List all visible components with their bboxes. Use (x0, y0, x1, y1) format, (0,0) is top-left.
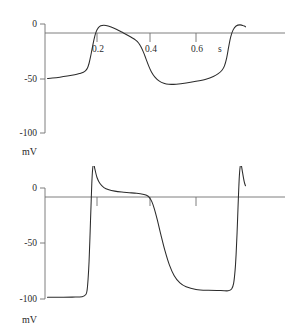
y-axis-unit-label-bottom: mV (22, 314, 38, 325)
membrane-potential-trace-bottom (48, 166, 246, 297)
y-tick-label-minus100-top: -100 (20, 128, 38, 138)
y-tick-label-0-bottom: 0 (32, 183, 37, 193)
x-axis-unit-label-top: s (218, 44, 222, 54)
y-axis-unit-label-top: mV (22, 146, 38, 157)
fast-response-plot: 0 -50 -100 mV (0, 166, 291, 332)
x-tick-label-0.2-top: 0.2 (92, 44, 104, 54)
y-tick-label-0-top: 0 (32, 19, 37, 29)
y-tick-label-minus100-bottom: -100 (20, 294, 38, 304)
action-potential-figure: 0 -50 -100 0.2 0.4 0.6 s mV 0 -50 (0, 0, 291, 332)
x-tick-label-0.6-top: 0.6 (191, 44, 203, 54)
chart-panel-bottom: 0 -50 -100 mV (0, 166, 291, 332)
x-tick-label-0.4-top: 0.4 (145, 44, 157, 54)
chart-panel-top: 0 -50 -100 0.2 0.4 0.6 s mV (0, 0, 291, 166)
membrane-potential-trace-top (48, 25, 246, 84)
slow-response-plot: 0 -50 -100 0.2 0.4 0.6 s mV (0, 0, 291, 166)
y-tick-label-minus50-bottom: -50 (24, 238, 37, 248)
y-tick-label-minus50-top: -50 (24, 74, 37, 84)
